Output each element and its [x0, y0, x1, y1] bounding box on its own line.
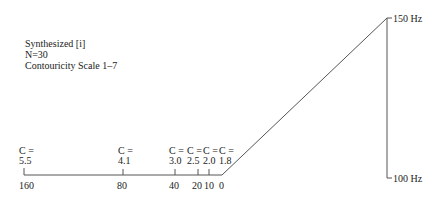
contour-diagram [0, 0, 444, 199]
c-label-0: C =1.8 [219, 146, 234, 166]
tick-label-0: 0 [219, 180, 224, 191]
tick-label-20: 20 [192, 180, 202, 191]
label-150hz: 150 Hz [393, 13, 422, 24]
tick-label-80: 80 [117, 180, 127, 191]
tick-label-40: 40 [169, 180, 179, 191]
c-label-80: C =4.1 [118, 146, 133, 166]
label-100hz: 100 Hz [393, 173, 422, 184]
c-label-10: C =2.0 [203, 146, 218, 166]
c-label-40: C =3.0 [169, 146, 184, 166]
c-label-20: C =2.5 [187, 146, 202, 166]
tick-label-160: 160 [19, 180, 34, 191]
pitch-rise-line [222, 18, 387, 175]
tick-label-10: 10 [204, 180, 214, 191]
c-label-160: C =5.5 [19, 146, 34, 166]
